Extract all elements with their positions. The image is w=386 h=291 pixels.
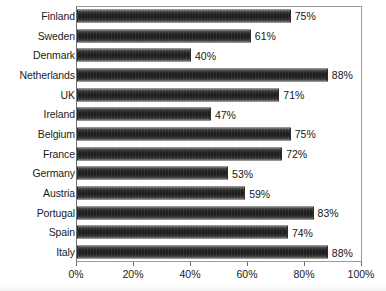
- bar-row: Denmark40%: [0, 45, 386, 65]
- bar-value-label: 53%: [228, 167, 253, 179]
- x-axis-tick-label: 40%: [179, 268, 200, 280]
- bar-track: 72%: [77, 147, 362, 160]
- bar-track: 83%: [77, 206, 362, 219]
- bar: [77, 9, 291, 22]
- category-label: UK: [61, 89, 75, 101]
- x-axis-tick-mark: [76, 262, 77, 266]
- x-axis-tick-mark: [247, 262, 248, 266]
- bar-row: Spain74%: [0, 223, 386, 243]
- bar-track: 88%: [77, 68, 362, 81]
- category-label: Austria: [43, 187, 75, 199]
- bar-row: Netherlands88%: [0, 65, 386, 85]
- bar-value-label: 74%: [288, 226, 313, 238]
- bar-value-label: 71%: [279, 89, 304, 101]
- bar-value-label: 75%: [291, 128, 316, 140]
- category-label: Belgium: [38, 128, 75, 140]
- bar-row: Germany53%: [0, 164, 386, 184]
- bar-row: Belgium75%: [0, 124, 386, 144]
- bar-value-label: 88%: [328, 69, 353, 81]
- bar-value-label: 47%: [211, 108, 236, 120]
- x-axis-tick-mark: [361, 262, 362, 266]
- x-axis-tick-mark: [304, 262, 305, 266]
- x-axis: 0%20%40%60%80%100%: [76, 262, 362, 291]
- category-label: Portugal: [37, 207, 75, 219]
- bar: [77, 206, 314, 219]
- bar-value-label: 40%: [191, 49, 216, 61]
- bar-track: 75%: [77, 9, 362, 22]
- bar: [77, 49, 191, 62]
- category-label: Germany: [33, 167, 75, 179]
- category-label: Ireland: [44, 108, 75, 120]
- bar: [77, 167, 228, 180]
- bar-track: 74%: [77, 226, 362, 239]
- bar: [77, 127, 291, 140]
- category-label: Italy: [56, 246, 75, 258]
- bar: [77, 108, 211, 121]
- bar-row: Austria59%: [0, 183, 386, 203]
- x-axis-tick-label: 0%: [68, 268, 83, 280]
- bar: [77, 68, 328, 81]
- bar-value-label: 88%: [328, 246, 353, 258]
- bar: [77, 88, 279, 101]
- category-label: Denmark: [33, 49, 75, 61]
- bar-track: 88%: [77, 246, 362, 259]
- bar-value-label: 59%: [245, 187, 270, 199]
- x-axis-tick-label: 100%: [348, 268, 375, 280]
- category-label: France: [43, 148, 75, 160]
- bar-chart: Finland75%Sweden61%Denmark40%Netherlands…: [0, 0, 386, 291]
- bar-track: 47%: [77, 108, 362, 121]
- bar: [77, 246, 328, 259]
- bar-row: Italy88%: [0, 242, 386, 262]
- bar-track: 75%: [77, 127, 362, 140]
- bar-row: France72%: [0, 144, 386, 164]
- bar: [77, 147, 282, 160]
- category-label: Spain: [49, 226, 75, 238]
- bar-row: Sweden61%: [0, 26, 386, 46]
- bar: [77, 29, 251, 42]
- bar-track: 53%: [77, 167, 362, 180]
- category-label: Sweden: [38, 30, 75, 42]
- x-axis-tick-mark: [133, 262, 134, 266]
- bar-value-label: 83%: [314, 207, 339, 219]
- category-label: Netherlands: [19, 69, 75, 81]
- bar-value-label: 61%: [251, 30, 276, 42]
- bar: [77, 187, 245, 200]
- bar-track: 71%: [77, 88, 362, 101]
- bar: [77, 226, 288, 239]
- bar-row: Finland75%: [0, 6, 386, 26]
- bar-value-label: 75%: [291, 10, 316, 22]
- bar-track: 61%: [77, 29, 362, 42]
- bar-track: 40%: [77, 49, 362, 62]
- bar-row: UK71%: [0, 85, 386, 105]
- x-axis-tick-label: 60%: [236, 268, 257, 280]
- x-axis-tick-label: 80%: [293, 268, 314, 280]
- bar-row: Portugal83%: [0, 203, 386, 223]
- bar-row: Ireland47%: [0, 104, 386, 124]
- x-axis-tick-mark: [190, 262, 191, 266]
- bar-value-label: 72%: [282, 148, 307, 160]
- category-label: Finland: [41, 10, 75, 22]
- bar-rows: Finland75%Sweden61%Denmark40%Netherlands…: [0, 6, 386, 262]
- x-axis-tick-label: 20%: [122, 268, 143, 280]
- bar-track: 59%: [77, 187, 362, 200]
